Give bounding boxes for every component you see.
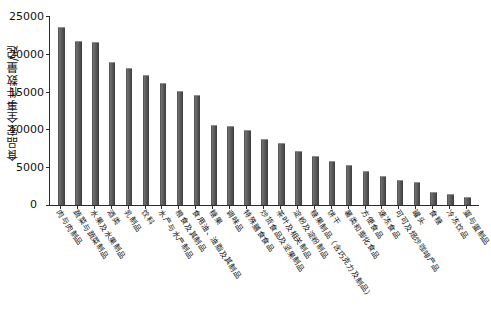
- bar: [109, 62, 116, 205]
- x-label-slot: 饼干: [323, 209, 340, 319]
- x-label-slot: 可可及焙炒咖啡产品: [390, 209, 407, 319]
- bar-slot: [358, 16, 375, 205]
- x-label-slot: 调味品: [221, 209, 238, 319]
- bar-slot: [155, 16, 172, 205]
- x-label-slot: 淀粉及淀粉制品: [289, 209, 306, 319]
- bar: [278, 143, 285, 205]
- x-label-slot: 饮料: [137, 209, 154, 319]
- x-label-slot: 特殊膳食食品: [238, 209, 255, 319]
- bar-slot: [256, 16, 273, 205]
- x-label-slot: 薯类和膨化食品: [340, 209, 357, 319]
- bar: [430, 192, 437, 205]
- x-label-slot: 肉与肉制品: [52, 209, 69, 319]
- bar-slot: [391, 16, 408, 205]
- y-tick-label: 5000: [16, 161, 44, 174]
- bar-slot: [290, 16, 307, 205]
- bar: [244, 130, 251, 205]
- bar-slot: [188, 16, 205, 205]
- bar-slot: [138, 16, 155, 205]
- bar: [177, 91, 184, 205]
- x-label-slot: 罐头: [407, 209, 424, 319]
- bar: [261, 139, 268, 205]
- bar-slot: [425, 16, 442, 205]
- x-label-slot: 乳制品: [120, 209, 137, 319]
- bar-slot: [53, 16, 70, 205]
- bar-slot: [222, 16, 239, 205]
- bar-slot: [408, 16, 425, 205]
- bar: [160, 83, 167, 205]
- bar: [414, 182, 421, 205]
- bar-slot: [121, 16, 138, 205]
- x-label-slot: 茶叶及相关制品: [272, 209, 289, 319]
- x-label-slot: 蔬菜与蔬菜制品: [69, 209, 86, 319]
- y-tick-label: 10000: [9, 123, 44, 136]
- bar: [58, 27, 65, 205]
- bar-slot: [87, 16, 104, 205]
- x-label-slot: 粮食及其制品: [170, 209, 187, 319]
- y-axis-title: 食品安全事件数量/起: [2, 0, 24, 205]
- x-label-slot: 食用油、油脂及其制品: [187, 209, 204, 319]
- x-label-slot: 炒货食品及坚果制品: [255, 209, 272, 319]
- x-label-slot: 冷冻饮品: [441, 209, 458, 319]
- x-label-slot: 方便食品: [357, 209, 374, 319]
- bar-series: [50, 16, 479, 205]
- bar: [397, 180, 404, 205]
- x-label-slot: 食糖: [424, 209, 441, 319]
- bar-slot: [341, 16, 358, 205]
- bar: [295, 151, 302, 205]
- bar-slot: [239, 16, 256, 205]
- bar: [143, 75, 150, 205]
- bar-slot: [273, 16, 290, 205]
- x-axis-category-label: 蛋与蛋制品: [461, 209, 490, 247]
- bar: [92, 42, 99, 205]
- bar-slot: [307, 16, 324, 205]
- x-label-slot: 水产与水产制品: [154, 209, 171, 319]
- bar: [447, 194, 454, 205]
- plot-area: 500010000150002000025000: [49, 16, 479, 206]
- x-label-slot: 水果及水果制品: [86, 209, 103, 319]
- x-label-slot: 速冻食品: [374, 209, 391, 319]
- x-label-slot: 糖果制品（含巧克力及制品）: [306, 209, 323, 319]
- bar: [194, 95, 201, 205]
- bar-slot: [70, 16, 87, 205]
- bar: [464, 197, 471, 205]
- bar: [227, 126, 234, 205]
- y-tick-label: 20000: [9, 47, 44, 60]
- bar: [126, 68, 133, 205]
- bar: [75, 41, 82, 205]
- y-tick-label: 25000: [9, 10, 44, 23]
- x-label-slot: 酒类: [103, 209, 120, 319]
- y-axis-title-text: 食品安全事件数量/起: [5, 44, 21, 161]
- bar-slot: [104, 16, 121, 205]
- bar-slot: [459, 16, 476, 205]
- bar-slot: [205, 16, 222, 205]
- bar-slot: [324, 16, 341, 205]
- y-tick-label-zero: 0: [30, 198, 37, 211]
- bar-slot: [171, 16, 188, 205]
- bar: [363, 171, 370, 205]
- bar-slot: [375, 16, 392, 205]
- x-label-slot: 糖果: [204, 209, 221, 319]
- x-label-slot: 蛋与蛋制品: [458, 209, 475, 319]
- bar-slot: [442, 16, 459, 205]
- bar: [312, 156, 319, 205]
- bar: [380, 176, 387, 205]
- x-axis-labels: 肉与肉制品蔬菜与蔬菜制品水果及水果制品酒类乳制品饮料水产与水产制品粮食及其制品食…: [49, 209, 478, 319]
- bar: [329, 161, 336, 205]
- y-tick-label: 15000: [9, 85, 44, 98]
- bar: [346, 165, 353, 205]
- bar: [211, 125, 218, 205]
